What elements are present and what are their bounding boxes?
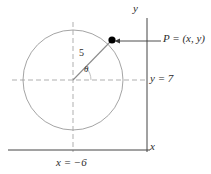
horizontal-guide-label: y = 7 bbox=[150, 73, 173, 84]
x-axis-label: x bbox=[150, 141, 155, 152]
angle-theta-label: θ bbox=[84, 65, 88, 74]
figure-canvas bbox=[0, 0, 211, 174]
point-p-marker[interactable] bbox=[108, 36, 115, 43]
geometry-figure: y x P = (x, y) 5 θ y = 7 x = −6 bbox=[0, 0, 211, 174]
y-axis-label: y bbox=[133, 3, 138, 14]
point-p-label: P = (x, y) bbox=[163, 33, 205, 44]
radius-length-label: 5 bbox=[79, 48, 84, 58]
vertical-guide-label: x = −6 bbox=[56, 157, 87, 168]
